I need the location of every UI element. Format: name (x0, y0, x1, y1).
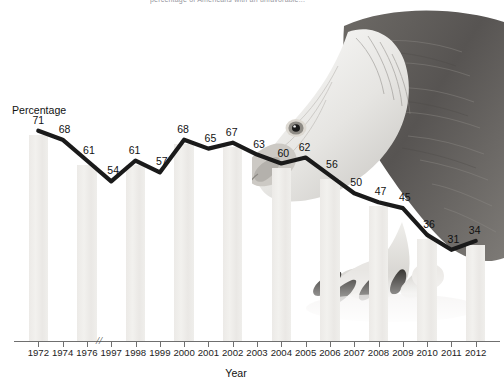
point-label-1974: 68 (59, 123, 71, 135)
x-tick-label-1976: 1976 (76, 347, 97, 358)
x-tick-label-2001: 2001 (198, 347, 219, 358)
point-label-1997: 54 (107, 164, 119, 176)
point-label-2003: 63 (253, 138, 265, 150)
x-tick-label-2010: 2010 (416, 347, 437, 358)
chart-figure: 71686154615768656763606256504745363134 /… (0, 0, 504, 387)
x-tick-label-2011: 2011 (441, 347, 462, 358)
x-tick-label-2008: 2008 (368, 347, 389, 358)
x-axis-line: // (14, 341, 500, 342)
point-label-2001: 65 (205, 132, 217, 144)
x-tick-label-2006: 2006 (319, 347, 340, 358)
point-label-2009: 45 (399, 191, 411, 203)
x-tick-label-2012: 2012 (465, 347, 486, 358)
point-label-1976: 61 (83, 144, 95, 156)
point-label-2004: 60 (277, 147, 289, 159)
x-tick-label-2007: 2007 (344, 347, 365, 358)
point-label-2012: 34 (469, 224, 481, 236)
point-label-2000: 68 (177, 123, 189, 135)
point-label-2007: 50 (350, 176, 362, 188)
point-label-1998: 61 (129, 144, 141, 156)
x-tick-label-1999: 1999 (149, 347, 170, 358)
plot-area: 71686154615768656763606256504745363134 (14, 104, 500, 342)
point-label-2008: 47 (375, 185, 387, 197)
x-tick-label-2000: 2000 (173, 347, 194, 358)
x-tick-label-1972: 1972 (28, 347, 49, 358)
x-tick-label-2004: 2004 (271, 347, 292, 358)
axis-break-marker: // (96, 335, 102, 346)
x-tick-label-1998: 1998 (125, 347, 146, 358)
x-tick-label-2003: 2003 (246, 347, 267, 358)
point-labels-layer: 71686154615768656763606256504745363134 (14, 104, 500, 342)
x-tick-label-2005: 2005 (295, 347, 316, 358)
point-label-2006: 56 (326, 158, 338, 170)
point-label-1999: 57 (156, 155, 168, 167)
x-tick-label-1997: 1997 (101, 347, 122, 358)
x-axis-title-text: Year (225, 367, 246, 379)
point-label-2005: 62 (299, 141, 311, 153)
point-label-2002: 67 (226, 126, 238, 138)
x-tick-label-2009: 2009 (392, 347, 413, 358)
x-tick-label-2002: 2002 (222, 347, 243, 358)
x-axis-title: Year (0, 367, 504, 379)
x-tick-label-1974: 1974 (52, 347, 73, 358)
x-axis-tick-labels: 1972197419761997199819992000200120022003… (0, 347, 504, 361)
point-label-2011: 31 (448, 233, 460, 245)
y-axis-title: Percentage (12, 104, 66, 116)
point-label-2010: 36 (423, 218, 435, 230)
